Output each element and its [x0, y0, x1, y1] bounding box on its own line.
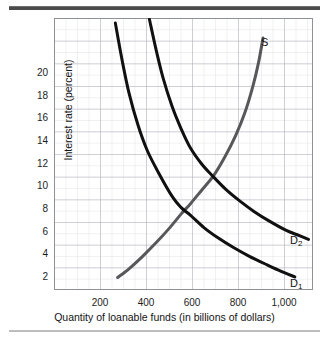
x-tick-400: 400: [125, 298, 167, 308]
y-tick-8: 8: [18, 204, 48, 214]
bottom-divider-rule: [9, 330, 320, 332]
chart-canvas: [54, 18, 313, 290]
d2-curve-label-text: D: [290, 234, 298, 246]
y-tick-18: 18: [18, 91, 48, 101]
x-axis-title: Quantity of loanable funds (in billions …: [0, 311, 329, 323]
y-tick-10: 10: [18, 181, 48, 191]
y-tick-4: 4: [18, 249, 48, 259]
d1-curve-label-sub: 1: [298, 282, 302, 291]
major-gridlines: [54, 18, 313, 290]
d2-curve-label-sub: 2: [298, 239, 302, 248]
s-curve-label-text: S: [261, 36, 268, 48]
y-tick-6: 6: [18, 227, 48, 237]
d1-curve-label: D1: [290, 277, 302, 289]
figure-root: 20 18 16 14 12 10 8 6 4 2 200 400 600 80…: [0, 0, 329, 341]
s-curve-label: S: [261, 36, 268, 48]
plot-area: 20 18 16 14 12 10 8 6 4 2 200 400 600 80…: [54, 18, 313, 290]
top-divider-rule: [9, 6, 320, 10]
y-tick-20: 20: [18, 68, 48, 78]
d1-curve-label-text: D: [290, 277, 298, 289]
y-tick-16: 16: [18, 113, 48, 123]
y-tick-2: 2: [18, 272, 48, 282]
x-tick-1000: 1,000: [263, 298, 305, 308]
x-tick-800: 800: [217, 298, 259, 308]
x-tick-600: 600: [171, 298, 213, 308]
y-tick-14: 14: [18, 136, 48, 146]
d2-curve-label: D2: [290, 234, 302, 246]
y-tick-12: 12: [18, 159, 48, 169]
x-tick-200: 200: [79, 298, 121, 308]
y-axis-title: Interest rate (percent): [62, 40, 74, 180]
